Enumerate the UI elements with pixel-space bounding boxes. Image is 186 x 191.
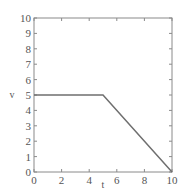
y-axis-label: v <box>10 89 15 100</box>
x-axis-label: t <box>102 179 105 190</box>
x-tick-label: 8 <box>142 174 148 186</box>
chart: 0246810 012345678910 t v <box>0 0 186 191</box>
x-axis-ticks: 0246810 <box>31 18 178 186</box>
x-tick-label: 6 <box>114 174 120 186</box>
y-tick-label: 0 <box>26 166 32 178</box>
y-tick-label: 2 <box>26 135 32 147</box>
y-tick-label: 3 <box>26 120 32 132</box>
y-tick-label: 8 <box>26 43 32 55</box>
y-tick-label: 6 <box>26 74 32 86</box>
x-tick-label: 2 <box>59 174 65 186</box>
x-tick-label: 0 <box>31 174 37 186</box>
y-tick-label: 7 <box>26 58 32 70</box>
x-tick-label: 4 <box>86 174 92 186</box>
y-tick-label: 5 <box>26 89 32 101</box>
x-tick-label: 10 <box>167 174 179 186</box>
y-tick-label: 9 <box>26 27 32 39</box>
y-tick-label: 10 <box>20 12 32 24</box>
series-line <box>34 95 172 172</box>
data-series <box>34 95 172 172</box>
y-tick-label: 1 <box>26 151 32 163</box>
y-tick-label: 4 <box>26 104 32 116</box>
